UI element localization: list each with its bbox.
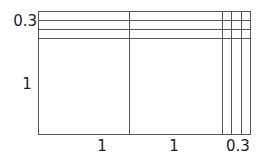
width-label: 1 — [97, 137, 107, 155]
height-labels: 0.31 — [13, 12, 37, 93]
horizontal-gridlines — [39, 21, 251, 39]
area-model-diagram: 0.31 110.3 — [0, 0, 261, 158]
width-label: 0.3 — [226, 137, 250, 155]
height-label: 0.3 — [13, 12, 37, 30]
width-label: 1 — [169, 137, 179, 155]
height-label: 1 — [22, 75, 32, 93]
width-labels: 110.3 — [97, 137, 250, 155]
